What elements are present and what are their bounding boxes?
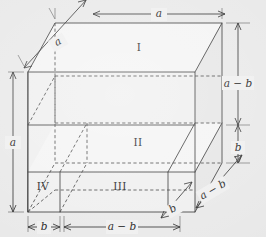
- ext-depth-top-start: [18, 55, 24, 66]
- cube-diagram-svg: a a a a: [0, 0, 266, 237]
- dimension-width-top: a: [55, 7, 225, 21]
- region-label-II: II: [133, 136, 142, 148]
- dimension-label-bottom-b: b: [41, 220, 48, 232]
- region-IV-face: [28, 172, 60, 212]
- dimension-label-bottom-ab: a − b: [108, 220, 137, 232]
- dimension-label-width-top: a: [156, 7, 162, 19]
- dimension-width-bottom-ab: a − b: [64, 216, 180, 234]
- figure-container: a a a a: [0, 0, 266, 237]
- dimension-label-right-lower: b: [235, 141, 242, 153]
- dimension-width-bottom-b: b: [28, 216, 60, 234]
- dimension-label-height-left: a: [10, 136, 16, 148]
- dimension-height-right-upper: a − b: [222, 23, 254, 125]
- region-label-I: I: [137, 41, 142, 53]
- region-label-III: III: [113, 180, 127, 192]
- dimension-height-left: a: [5, 72, 24, 212]
- region-label-IV: IV: [37, 180, 50, 192]
- ext-depth-top-end: [49, 8, 55, 19]
- dimension-label-right-upper: a − b: [224, 77, 253, 89]
- dimension-height-right-lower: b: [226, 125, 250, 163]
- lower-slab-top-ledge: [28, 123, 222, 172]
